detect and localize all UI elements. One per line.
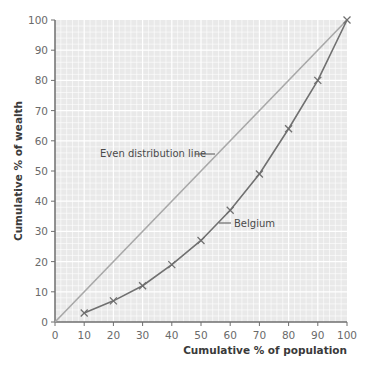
x-tick-label: 70 (253, 329, 266, 341)
y-tick-label: 20 (35, 256, 48, 268)
x-tick-label: 60 (224, 329, 237, 341)
y-tick-label: 100 (28, 14, 48, 26)
even-distribution-label: Even distribution line (100, 148, 206, 159)
belgium-label: Belgium (234, 218, 275, 229)
y-tick-label: 90 (35, 44, 48, 56)
x-tick-label: 20 (107, 329, 120, 341)
x-axis-title: Cumulative % of population (183, 344, 347, 356)
y-tick-label: 0 (41, 316, 48, 328)
y-tick-label: 50 (35, 165, 48, 177)
x-tick-label: 10 (78, 329, 91, 341)
x-tick-label: 100 (337, 329, 357, 341)
y-tick-label: 10 (35, 286, 48, 298)
x-tick-label: 50 (194, 329, 207, 341)
x-tick-label: 0 (52, 329, 59, 341)
y-tick-label: 70 (35, 105, 48, 117)
y-tick-label: 40 (35, 195, 48, 207)
x-tick-label: 80 (282, 329, 295, 341)
x-tick-label: 30 (136, 329, 149, 341)
x-tick-label: 40 (165, 329, 178, 341)
y-axis-title: Cumulative % of wealth (12, 101, 24, 241)
y-tick-label: 30 (35, 225, 48, 237)
lorenz-curve-chart: 0102030405060708090100010203040506070809… (0, 0, 368, 367)
y-tick-label: 60 (35, 135, 48, 147)
x-tick-label: 90 (311, 329, 324, 341)
y-tick-label: 80 (35, 74, 48, 86)
